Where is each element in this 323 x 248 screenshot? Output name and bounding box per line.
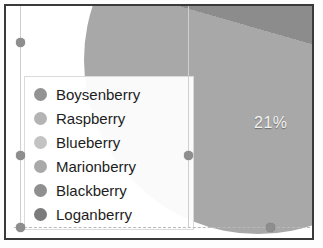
selection-handle-top-left[interactable]: [16, 38, 25, 47]
legend-swatch-icon: [34, 136, 47, 149]
selection-handle-middle-left[interactable]: [16, 151, 25, 160]
legend-item-label: Boysenberry: [56, 87, 140, 102]
legend-item-label: Marionberry: [56, 159, 136, 174]
legend-item-boysenberry[interactable]: Boysenberry: [34, 82, 193, 106]
chart-frame: 21% Boysenberry Raspberry Blueberry Mari…: [4, 4, 314, 240]
legend-item-blackberry[interactable]: Blackberry: [34, 178, 193, 202]
legend-item-marionberry[interactable]: Marionberry: [34, 154, 193, 178]
legend-swatch-icon: [34, 208, 47, 221]
slice-data-label: 21%: [254, 114, 288, 132]
legend-swatch-icon: [34, 112, 47, 125]
legend-swatch-icon: [34, 160, 47, 173]
legend-swatch-icon: [34, 88, 47, 101]
guide-line-vertical-right: [188, 6, 189, 228]
legend-item-label: Loganberry: [56, 207, 132, 222]
selection-handle-bottom-left[interactable]: [16, 223, 25, 232]
chart-legend[interactable]: Boysenberry Raspberry Blueberry Marionbe…: [24, 76, 194, 230]
legend-item-label: Blueberry: [56, 135, 120, 150]
legend-swatch-icon: [34, 184, 47, 197]
legend-item-raspberry[interactable]: Raspberry: [34, 106, 193, 130]
legend-item-label: Raspberry: [56, 111, 125, 126]
legend-item-blueberry[interactable]: Blueberry: [34, 130, 193, 154]
legend-item-loganberry[interactable]: Loganberry: [34, 202, 193, 226]
chart-canvas: 21% Boysenberry Raspberry Blueberry Mari…: [0, 0, 323, 248]
selection-handle-bottom-right[interactable]: [266, 223, 275, 232]
selection-handle-middle-right[interactable]: [184, 151, 193, 160]
legend-item-label: Blackberry: [56, 183, 127, 198]
